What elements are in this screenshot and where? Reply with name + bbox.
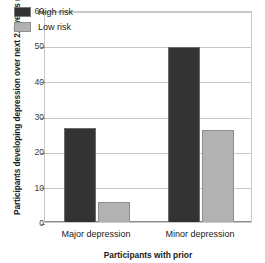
y-tick-label: 40 — [18, 77, 44, 87]
y-tick-label: 30 — [18, 112, 44, 122]
gridline — [45, 118, 251, 119]
bar-major-depression-low-risk — [98, 202, 130, 222]
x-tick-label: Minor depression — [140, 229, 260, 239]
gridline — [45, 12, 251, 13]
bar-minor-depression-low-risk — [202, 130, 234, 222]
x-tick-label: Major depression — [36, 229, 156, 239]
y-tick-label: 20 — [18, 147, 44, 157]
bar-minor-depression-high-risk — [168, 47, 200, 222]
legend-swatch-low-risk — [14, 22, 31, 32]
bar-chart: Participants developing depression over … — [0, 0, 265, 263]
x-axis-title: Participants with prior — [44, 250, 252, 260]
gridline — [45, 82, 251, 83]
legend-label-low-risk: Low risk — [38, 22, 71, 32]
y-tick-label: 60 — [18, 6, 44, 16]
gridline — [45, 47, 251, 48]
bar-major-depression-high-risk — [64, 128, 96, 222]
y-tick-label: 50 — [18, 41, 44, 51]
y-tick-label: 0 — [18, 218, 44, 228]
plot-area — [44, 11, 252, 223]
legend-item-low-risk: Low risk — [14, 20, 73, 33]
y-tick-label: 10 — [18, 183, 44, 193]
